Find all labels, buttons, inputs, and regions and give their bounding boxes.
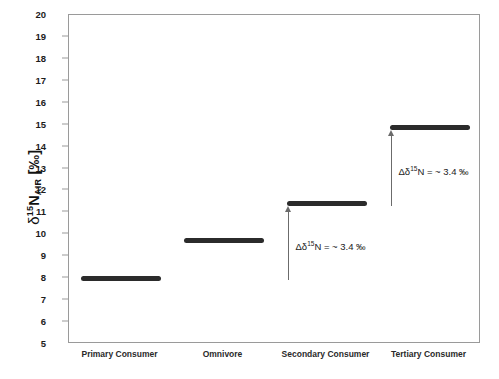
y-axis-tick-label: 5 (6, 338, 46, 349)
arrow-head-icon (388, 130, 394, 136)
plot-area: Δδ15N = ~ 3.4 ‰Δδ15N = ~ 3.4 ‰ (68, 14, 480, 343)
nitrogen-isotope-trophic-level-chart: δ15NAIR [‰] 201918171615141312111098765 … (0, 0, 499, 379)
x-axis-label-tertiary-consumer: Tertiary Consumer (391, 349, 466, 359)
arrow-shaft (288, 211, 289, 281)
y-axis-tick-label: 7 (6, 294, 46, 305)
y-axis-tick-label: 16 (6, 96, 46, 107)
annotation-label: Δδ15N = ~ 3.4 ‰ (399, 165, 469, 177)
x-axis-label-omnivore: Omnivore (203, 349, 243, 359)
y-axis-tick-label: 17 (6, 74, 46, 85)
data-bar-tertiary-consumer (390, 125, 470, 130)
y-axis-tick-label: 13 (6, 162, 46, 173)
y-axis: 201918171615141312111098765 (0, 0, 68, 379)
y-axis-tick-label: 15 (6, 118, 46, 129)
y-axis-tick-label: 14 (6, 140, 46, 151)
data-bar-secondary-consumer (287, 201, 367, 206)
x-axis-label-secondary-consumer: Secondary Consumer (282, 349, 370, 359)
y-axis-tick-label: 20 (6, 9, 46, 20)
y-axis-tick-label: 19 (6, 30, 46, 41)
arrow-head-icon (285, 206, 291, 212)
y-axis-tick-label: 9 (6, 250, 46, 261)
y-axis-tick-label: 10 (6, 228, 46, 239)
arrow-shaft (391, 135, 392, 206)
data-bar-primary-consumer (81, 276, 161, 281)
annotation-label: Δδ15N = ~ 3.4 ‰ (296, 240, 366, 252)
data-bar-omnivore (184, 238, 264, 243)
y-axis-tick-label: 11 (6, 206, 46, 217)
y-axis-tick-label: 18 (6, 52, 46, 63)
y-axis-tick-label: 6 (6, 316, 46, 327)
x-axis-label-primary-consumer: Primary Consumer (81, 349, 157, 359)
y-axis-tick-label: 12 (6, 184, 46, 195)
y-axis-tick-label: 8 (6, 272, 46, 283)
